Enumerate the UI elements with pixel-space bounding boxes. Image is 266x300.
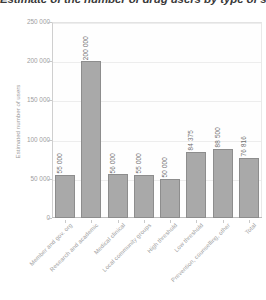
x-axis-tick-mark: [91, 220, 92, 223]
bar: 76 816: [239, 158, 259, 218]
x-axis-labels: Member and gov. orgResearch and academic…: [52, 220, 262, 300]
chart-title: Estimate of the number of drug users by …: [0, 0, 266, 5]
x-axis-category-label: Local community groups: [101, 222, 152, 273]
bar-item: 55 000: [134, 22, 154, 218]
bar-value-label: 55 000: [135, 153, 142, 173]
x-axis-tick-mark: [144, 220, 145, 223]
x-axis-tick-mark: [118, 220, 119, 223]
x-axis-tick-mark: [170, 220, 171, 223]
bar-value-label: 55 000: [56, 153, 63, 173]
x-axis-category-label: Member and gov. org: [28, 222, 73, 267]
bar-value-label: 88 500: [214, 127, 221, 147]
bar: 55 000: [55, 175, 75, 218]
bar-value-label: 56 000: [109, 153, 116, 173]
x-axis-tick-mark: [65, 220, 66, 223]
bar: 200 000: [81, 61, 101, 218]
bar-value-label: 50 000: [161, 157, 168, 177]
bar-item: 84 375: [186, 22, 206, 218]
x-axis-category-label: Research and academic: [49, 222, 100, 273]
bar: 50 000: [160, 179, 180, 218]
x-axis-category-label: Prevention, counselling, other: [170, 222, 231, 283]
y-axis-tick-label: 200 000: [0, 57, 50, 64]
bar-chart-figure: Estimate of the number of drug users by …: [0, 0, 266, 300]
bar-item: 50 000: [160, 22, 180, 218]
bar-value-label: 84 375: [187, 130, 194, 150]
x-axis-tick-mark: [196, 220, 197, 223]
bar-item: 56 000: [108, 22, 128, 218]
bar: 84 375: [186, 152, 206, 218]
bar: 88 500: [213, 149, 233, 218]
x-axis-category-label: Total: [244, 222, 257, 235]
bar-value-label: 76 816: [240, 136, 247, 156]
y-axis-title: Estimated number of users: [14, 57, 21, 187]
bar: 56 000: [108, 174, 128, 218]
y-axis-tick-label: 250 000: [0, 18, 50, 25]
y-axis-tick-label: 50 000: [0, 175, 50, 182]
y-axis-tick-mark: [48, 218, 52, 219]
y-axis-tick-label: 100 000: [0, 136, 50, 143]
y-axis-tick-label: 0: [0, 214, 50, 221]
x-axis-tick-mark: [223, 220, 224, 223]
bar-value-label: 200 000: [82, 36, 89, 60]
bar: 55 000: [134, 175, 154, 218]
bar-item: 55 000: [55, 22, 75, 218]
bar-item: 200 000: [81, 22, 101, 218]
y-axis-tick-label: 150 000: [0, 96, 50, 103]
bar-item: 88 500: [213, 22, 233, 218]
bar-item: 76 816: [239, 22, 259, 218]
bar-series: 55 000200 00056 00055 00050 00084 37588 …: [52, 22, 262, 218]
x-axis-tick-mark: [249, 220, 250, 223]
